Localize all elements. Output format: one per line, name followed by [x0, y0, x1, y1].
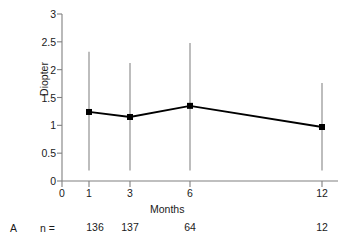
chart-figure: 00.511.522.53 Diopter Months A n = 13613… — [0, 0, 344, 246]
data-series-line — [89, 106, 322, 127]
data-point-marker — [86, 109, 92, 115]
panel-label: A — [10, 222, 17, 234]
y-axis-tick-labels: 00.511.522.53 — [10, 0, 56, 246]
data-point-marker — [319, 124, 325, 130]
x-axis-title: Months — [150, 203, 184, 215]
y-tick-label: 2.5 — [10, 37, 56, 47]
y-axis-tick-marks — [57, 14, 62, 181]
data-point-marker — [127, 114, 133, 120]
x-tick-label: 12 — [302, 188, 342, 199]
n-count-value: 137 — [100, 222, 160, 233]
error-bars — [89, 43, 322, 170]
axis-lines — [62, 14, 338, 181]
n-count-value: 64 — [160, 222, 220, 233]
x-tick-label: 3 — [110, 188, 150, 199]
x-tick-label: 6 — [170, 188, 210, 199]
y-tick-label: 0.5 — [10, 148, 56, 158]
n-count-prefix: n = — [40, 222, 55, 234]
y-tick-label: 3 — [10, 9, 56, 19]
n-count-value: 12 — [292, 222, 344, 233]
y-axis-title: Diopter — [37, 49, 51, 109]
x-tick-label: 1 — [69, 188, 109, 199]
data-point-marker — [187, 103, 193, 109]
y-tick-label: 1 — [10, 120, 56, 130]
y-tick-label: 0 — [10, 176, 56, 186]
